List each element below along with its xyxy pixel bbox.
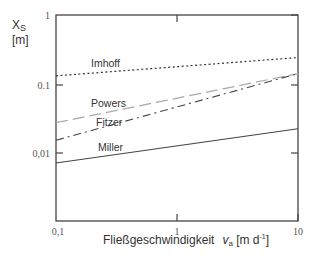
series-label-fitzer: Fitzer: [96, 116, 123, 128]
plot-area: 1 0.1 0,01 0,1 1 10 Imhoff Powers Fitzer…: [0, 0, 319, 263]
y-tick-label: 1: [45, 10, 50, 21]
plot-frame: [56, 15, 298, 221]
series-label-miller: Miller: [98, 141, 124, 153]
series-label-powers: Powers: [91, 97, 126, 109]
y-tick-label: 0.1: [38, 80, 51, 91]
x-tick-label: 10: [293, 226, 303, 237]
x-axis-label: Fließgeschwindigkeitva [m d-1]: [103, 233, 269, 247]
x-tick-label: 0,1: [52, 226, 65, 237]
y-axis-label: XS [m]: [12, 18, 29, 47]
chart: XS [m] 1 0.1 0,01 0,1 1 10 Imhoff Powers…: [0, 0, 319, 263]
series-line-miller: [56, 129, 298, 163]
series-label-imhoff: Imhoff: [91, 57, 120, 69]
y-tick-label: 0,01: [33, 148, 51, 159]
